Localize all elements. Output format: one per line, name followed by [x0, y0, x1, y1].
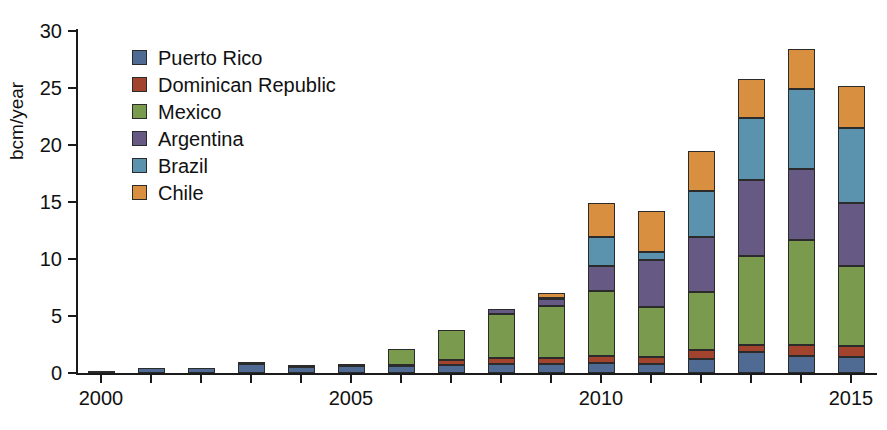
bar-segment-dominican-republic[interactable]	[738, 345, 765, 353]
y-tick-label: 20	[16, 135, 62, 155]
bar-segment-chile[interactable]	[738, 79, 765, 118]
legend-swatch-icon	[132, 158, 147, 173]
y-tick-label: 15	[16, 192, 62, 212]
bar-2008[interactable]	[488, 31, 515, 373]
bar-segment-puerto-rico[interactable]	[288, 367, 315, 373]
x-tick	[200, 375, 202, 383]
bar-segment-chile[interactable]	[688, 151, 715, 191]
y-tick	[68, 315, 76, 317]
bar-segment-dominican-republic[interactable]	[588, 356, 615, 363]
x-tick	[400, 375, 402, 383]
legend-label: Dominican Republic	[158, 75, 336, 95]
bar-segment-argentina[interactable]	[538, 299, 565, 306]
bar-segment-chile[interactable]	[588, 203, 615, 237]
bar-segment-mexico[interactable]	[788, 240, 815, 345]
bar-segment-puerto-rico[interactable]	[738, 352, 765, 373]
bar-segment-puerto-rico[interactable]	[838, 357, 865, 373]
bar-2007[interactable]	[438, 31, 465, 373]
bar-2014[interactable]	[788, 31, 815, 373]
bar-2005[interactable]	[338, 31, 365, 373]
bar-segment-dominican-republic[interactable]	[488, 358, 515, 364]
bar-segment-mexico[interactable]	[838, 266, 865, 346]
x-tick	[150, 375, 152, 383]
bar-segment-mexico[interactable]	[488, 314, 515, 358]
y-tick	[68, 372, 76, 374]
bar-segment-puerto-rico[interactable]	[488, 364, 515, 373]
bar-segment-argentina[interactable]	[838, 203, 865, 266]
bar-segment-brazil[interactable]	[838, 128, 865, 203]
bar-segment-mexico[interactable]	[388, 349, 415, 365]
bar-segment-chile[interactable]	[788, 49, 815, 89]
bar-segment-argentina[interactable]	[738, 180, 765, 255]
bar-segment-mexico[interactable]	[638, 307, 665, 357]
x-tick	[100, 375, 102, 383]
bar-segment-puerto-rico[interactable]	[688, 359, 715, 373]
bar-segment-mexico[interactable]	[738, 256, 765, 345]
x-tick-label: 2005	[329, 387, 374, 410]
bar-segment-puerto-rico[interactable]	[638, 364, 665, 373]
bar-segment-puerto-rico[interactable]	[338, 366, 365, 373]
bar-segment-puerto-rico[interactable]	[388, 366, 415, 373]
bar-2011[interactable]	[638, 31, 665, 373]
y-tick	[68, 144, 76, 146]
x-tick	[250, 375, 252, 383]
bar-segment-brazil[interactable]	[788, 89, 815, 169]
bar-segment-dominican-republic[interactable]	[438, 360, 465, 365]
bar-segment-puerto-rico[interactable]	[788, 356, 815, 373]
bar-segment-brazil[interactable]	[738, 118, 765, 181]
bar-segment-mexico[interactable]	[688, 292, 715, 350]
bar-segment-puerto-rico[interactable]	[188, 368, 215, 373]
bar-2010[interactable]	[588, 31, 615, 373]
bar-2013[interactable]	[738, 31, 765, 373]
legend-item-chile[interactable]: Chile	[132, 179, 336, 206]
y-tick-label: 0	[16, 363, 62, 383]
bar-segment-brazil[interactable]	[638, 252, 665, 260]
bar-segment-argentina[interactable]	[788, 169, 815, 240]
bar-segment-puerto-rico[interactable]	[538, 364, 565, 373]
bar-segment-chile[interactable]	[538, 293, 565, 298]
bar-segment-puerto-rico[interactable]	[438, 365, 465, 373]
bar-segment-argentina[interactable]	[688, 237, 715, 292]
x-tick	[800, 375, 802, 383]
bar-segment-dominican-republic[interactable]	[688, 350, 715, 359]
bar-segment-puerto-rico[interactable]	[138, 368, 165, 373]
bar-segment-dominican-republic[interactable]	[788, 345, 815, 356]
bar-segment-mexico[interactable]	[438, 330, 465, 361]
bar-2006[interactable]	[388, 31, 415, 373]
bar-segment-dominican-republic[interactable]	[538, 358, 565, 364]
bar-segment-argentina[interactable]	[588, 266, 615, 291]
bar-2012[interactable]	[688, 31, 715, 373]
bar-segment-chile[interactable]	[838, 86, 865, 128]
bar-segment-puerto-rico[interactable]	[588, 363, 615, 373]
legend-item-mexico[interactable]: Mexico	[132, 98, 336, 125]
legend-label: Argentina	[158, 129, 244, 149]
x-tick-label: 2000	[79, 387, 124, 410]
bar-segment-mexico[interactable]	[538, 306, 565, 358]
bar-segment-argentina[interactable]	[488, 309, 515, 314]
bar-segment-dominican-republic[interactable]	[838, 346, 865, 357]
bar-segment-dominican-republic[interactable]	[238, 362, 265, 364]
bar-segment-brazil[interactable]	[588, 237, 615, 266]
legend-item-argentina[interactable]: Argentina	[132, 125, 336, 152]
bar-2015[interactable]	[838, 31, 865, 373]
legend-item-brazil[interactable]: Brazil	[132, 152, 336, 179]
bar-segment-argentina[interactable]	[638, 260, 665, 307]
bar-segment-dominican-republic[interactable]	[638, 357, 665, 364]
bar-segment-brazil[interactable]	[688, 191, 715, 238]
legend-item-puerto-rico[interactable]: Puerto Rico	[132, 44, 336, 71]
x-tick	[300, 375, 302, 383]
x-tick	[750, 375, 752, 383]
bar-2009[interactable]	[538, 31, 565, 373]
legend-item-dominican-republic[interactable]: Dominican Republic	[132, 71, 336, 98]
bar-segment-puerto-rico[interactable]	[88, 371, 115, 373]
bar-segment-mexico[interactable]	[588, 291, 615, 356]
bar-segment-chile[interactable]	[638, 211, 665, 252]
bar-segment-dominican-republic[interactable]	[338, 364, 365, 366]
bar-2000[interactable]	[88, 31, 115, 373]
x-tick-label: 2010	[579, 387, 624, 410]
bar-segment-dominican-republic[interactable]	[288, 365, 315, 367]
y-tick-label: 10	[16, 249, 62, 269]
bar-segment-puerto-rico[interactable]	[238, 364, 265, 373]
legend-label: Chile	[158, 183, 204, 203]
y-tick	[68, 87, 76, 89]
